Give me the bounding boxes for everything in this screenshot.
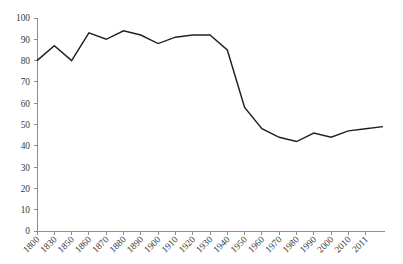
x-tick-label: 1880 (108, 234, 129, 255)
y-tick-label: 20 (21, 184, 31, 194)
y-tick-label: 0 (25, 226, 30, 236)
y-tick-label: 40 (21, 141, 31, 151)
x-tick-label: 1950 (229, 234, 250, 255)
x-tick-label: 1940 (211, 234, 232, 255)
y-tick-label: 80 (21, 56, 31, 66)
y-axis-ticks (34, 18, 38, 231)
x-tick-label: 1930 (194, 234, 215, 255)
x-axis-tick-labels: 1800183018501860187018801890190019101920… (21, 234, 370, 255)
y-tick-label: 10 (21, 205, 31, 215)
x-tick-label: 1890 (125, 234, 146, 255)
x-tick-label: 1970 (263, 234, 284, 255)
data-series-line (37, 31, 383, 142)
x-tick-label: 1800 (21, 234, 42, 255)
x-tick-label: 1910 (159, 234, 180, 255)
x-tick-label: 2011 (350, 234, 370, 254)
y-tick-label: 70 (21, 77, 31, 87)
x-tick-label: 1990 (298, 234, 319, 255)
x-tick-label: 1900 (142, 234, 163, 255)
x-tick-label: 1920 (177, 234, 198, 255)
x-tick-label: 1870 (90, 234, 111, 255)
chart-canvas: 0102030405060708090100 18001830185018601… (0, 0, 403, 264)
y-tick-label: 90 (21, 35, 31, 45)
x-tick-label: 1960 (246, 234, 267, 255)
x-tick-label: 2000 (315, 234, 336, 255)
x-tick-label: 1980 (281, 234, 302, 255)
x-tick-label: 2010 (332, 234, 353, 255)
y-tick-label: 100 (16, 13, 30, 23)
y-tick-label: 60 (21, 99, 31, 109)
line-chart: 0102030405060708090100 18001830185018601… (0, 0, 403, 264)
y-tick-label: 30 (21, 163, 31, 173)
x-tick-label: 1830 (38, 234, 59, 255)
x-axis-ticks (37, 231, 366, 235)
x-tick-label: 1850 (56, 234, 77, 255)
y-tick-label: 50 (21, 120, 31, 130)
y-axis-tick-labels: 0102030405060708090100 (16, 13, 30, 236)
x-tick-label: 1860 (73, 234, 94, 255)
